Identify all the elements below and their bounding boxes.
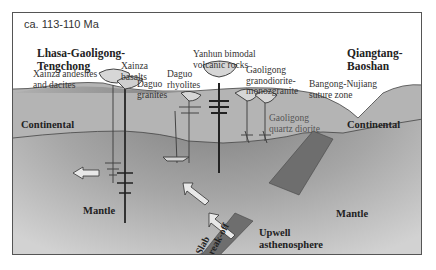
quartz-diorite-line2: quartz diorite [269,124,320,135]
daguo-granites-line1: Daguo [137,79,167,90]
cropped-caption [0,259,436,270]
granodiorite-line3: monozgranite [246,86,298,97]
xainza-andesites-line2: and dacites [33,80,97,91]
label-daguo-granites: Daguo granites [137,79,167,100]
yanhun-line1: Yanhun bimodal [193,49,256,60]
suture-line2: suture zone [309,90,377,101]
xainza-andesites-line1: Xainza andesites [33,69,97,80]
label-daguo-rhyolites: Daguo rhyolites [167,69,200,90]
terrane-right-label: Qiangtang- Baoshan [347,47,403,73]
label-gaoligong-granodiorite: Gaoligong granodiorite- monozgranite [246,65,298,97]
granodiorite-line2: granodiorite- [246,76,298,87]
mantle-right-label: Mantle [336,209,368,220]
suture-line1: Bangong-Nujiang [309,79,377,90]
upwell-asthenosphere-label: Upwell asthenosphere [259,227,323,251]
xainza-basalts-line1: Xainza [121,61,148,72]
terrane-left-line1: Lhasa-Gaoligong- [37,47,125,60]
label-gaoligong-quartz-diorite: Gaoligong quartz diorite [269,113,320,134]
quartz-diorite-line1: Gaoligong [269,113,320,124]
granodiorite-line1: Gaoligong [246,65,298,76]
upwell-line1: Upwell [259,227,323,239]
daguo-rhyolites-line2: rhyolites [167,80,200,91]
continental-right-label: Continental [347,120,400,131]
daguo-rhyolites-line1: Daguo [167,69,200,80]
daguo-granites-line2: granites [137,90,167,101]
terrane-right-line2: Baoshan [347,60,403,73]
age-label: ca. 113-110 Ma [24,19,99,30]
continental-left-label: Continental [21,120,74,131]
upwell-line2: asthenosphere [259,239,323,251]
label-xainza-andesites: Xainza andesites and dacites [33,69,97,90]
label-suture-zone: Bangong-Nujiang suture zone [309,79,377,100]
mantle-left-label: Mantle [83,206,115,217]
terrane-right-line1: Qiangtang- [347,47,403,60]
diagram-frame: ca. 113-110 Ma Lhasa-Gaoligong- Tengchon… [12,12,422,255]
